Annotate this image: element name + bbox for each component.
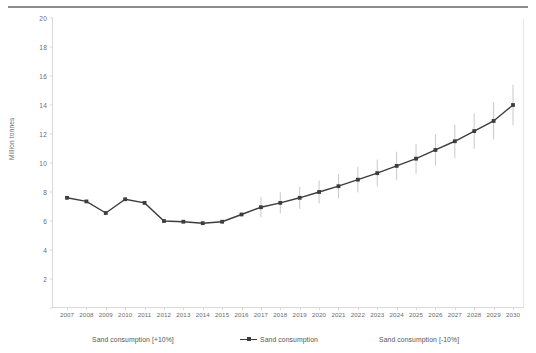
x-tick-mark: [319, 307, 320, 310]
data-point-marker: [162, 219, 166, 223]
y-tick-label: 4: [43, 247, 47, 254]
x-tick-mark: [338, 307, 339, 310]
x-tick-label: 2020: [312, 311, 326, 318]
x-tick-label: 2012: [157, 311, 171, 318]
x-tick-mark: [513, 307, 514, 310]
x-tick-label: 2013: [176, 311, 190, 318]
y-tick-label: 18: [39, 44, 47, 51]
x-tick-label: 2029: [487, 311, 501, 318]
legend-label-plus10: Sand consumption [+10%]: [92, 336, 174, 343]
y-tick-label: 2: [43, 276, 47, 283]
x-tick-label: 2009: [99, 311, 113, 318]
data-point-marker: [240, 213, 244, 217]
x-tick-mark: [242, 307, 243, 310]
x-tick-label: 2010: [118, 311, 132, 318]
chart-figure: Million tonnes 2468101214161820200720082…: [0, 0, 536, 353]
y-tick-mark: [50, 279, 53, 280]
x-tick-mark: [164, 307, 165, 310]
data-point-marker: [395, 164, 399, 168]
x-tick-label: 2021: [331, 311, 345, 318]
y-tick-mark: [50, 47, 53, 48]
x-tick-label: 2026: [428, 311, 442, 318]
x-tick-mark: [125, 307, 126, 310]
legend-item-sand-consumption[interactable]: Sand consumption: [240, 336, 318, 343]
x-tick-label: 2011: [138, 311, 152, 318]
data-point-marker: [65, 196, 69, 200]
x-tick-label: 2007: [60, 311, 74, 318]
y-tick-label: 12: [39, 131, 47, 138]
data-point-marker: [472, 129, 476, 133]
data-point-marker: [414, 157, 418, 161]
y-tick-mark: [50, 105, 53, 106]
data-point-marker: [492, 119, 496, 123]
data-point-marker: [375, 171, 379, 175]
x-tick-mark: [455, 307, 456, 310]
x-tick-label: 2024: [390, 311, 404, 318]
x-tick-label: 2019: [293, 311, 307, 318]
data-point-marker: [104, 211, 108, 215]
x-tick-label: 2008: [79, 311, 93, 318]
x-tick-mark: [67, 307, 68, 310]
legend-label-minus10: Sand consumption [-10%]: [379, 336, 459, 343]
x-tick-mark: [416, 307, 417, 310]
x-tick-mark: [397, 307, 398, 310]
y-tick-mark: [50, 76, 53, 77]
x-tick-mark: [261, 307, 262, 310]
data-point-marker: [298, 196, 302, 200]
x-tick-mark: [183, 307, 184, 310]
x-tick-mark: [377, 307, 378, 310]
y-tick-label: 20: [39, 15, 47, 22]
x-tick-label: 2023: [370, 311, 384, 318]
y-axis-title: Million tonnes: [8, 117, 15, 160]
legend-item-sand-consumption-minus10[interactable]: Sand consumption [-10%]: [379, 336, 459, 343]
x-tick-mark: [280, 307, 281, 310]
x-tick-label: 2028: [467, 311, 481, 318]
x-tick-mark: [203, 307, 204, 310]
data-point-marker: [84, 200, 88, 204]
data-point-marker: [181, 220, 185, 224]
x-tick-mark: [474, 307, 475, 310]
x-tick-label: 2018: [273, 311, 287, 318]
chart-legend: Sand consumption [+10%] Sand consumption…: [52, 331, 524, 347]
y-tick-mark: [50, 163, 53, 164]
y-tick-label: 14: [39, 102, 47, 109]
x-tick-label: 2027: [448, 311, 462, 318]
legend-item-sand-consumption-plus10[interactable]: Sand consumption [+10%]: [92, 336, 174, 343]
data-point-marker: [434, 148, 438, 152]
x-tick-mark: [106, 307, 107, 310]
x-tick-mark: [222, 307, 223, 310]
y-tick-label: 16: [39, 73, 47, 80]
y-tick-mark: [50, 308, 53, 309]
data-point-marker: [143, 201, 147, 205]
x-tick-mark: [300, 307, 301, 310]
x-tick-mark: [435, 307, 436, 310]
y-tick-mark: [50, 250, 53, 251]
series-line-sand-consumption: [67, 105, 513, 223]
y-tick-label: 10: [39, 160, 47, 167]
data-point-marker: [317, 190, 321, 194]
series-layer: [53, 18, 525, 308]
x-tick-mark: [358, 307, 359, 310]
y-tick-mark: [50, 221, 53, 222]
legend-label-sand-consumption: Sand consumption: [260, 336, 318, 343]
x-tick-label: 2025: [409, 311, 423, 318]
x-tick-label: 2014: [196, 311, 210, 318]
y-tick-mark: [50, 18, 53, 19]
x-tick-mark: [494, 307, 495, 310]
data-point-marker: [511, 103, 515, 107]
data-point-marker: [337, 184, 341, 188]
x-tick-mark: [86, 307, 87, 310]
data-point-marker: [123, 197, 127, 201]
x-tick-label: 2017: [254, 311, 268, 318]
x-tick-label: 2016: [234, 311, 248, 318]
data-point-marker: [220, 220, 224, 224]
y-tick-label: 8: [43, 189, 47, 196]
x-tick-mark: [145, 307, 146, 310]
plot-area: 2468101214161820200720082009201020112012…: [52, 18, 524, 308]
legend-swatch-line-marker-icon: [240, 336, 257, 343]
data-point-marker: [201, 221, 205, 225]
data-point-marker: [453, 139, 457, 143]
data-point-marker: [356, 178, 360, 182]
y-tick-label: 6: [43, 218, 47, 225]
x-tick-label: 2015: [215, 311, 229, 318]
